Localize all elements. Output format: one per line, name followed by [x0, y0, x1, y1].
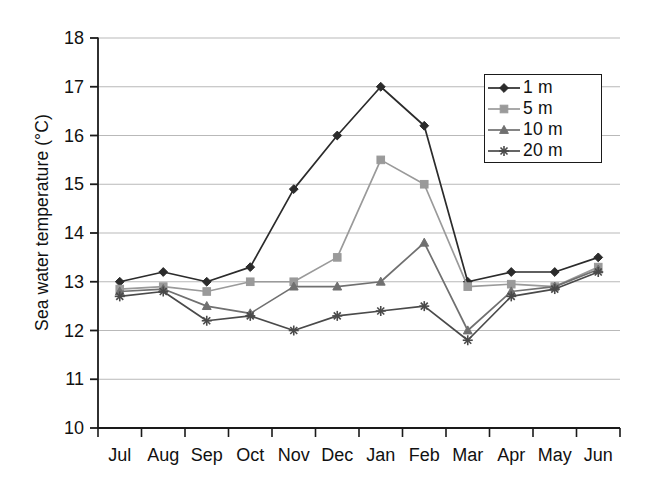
legend-item-20m: 20 m: [485, 140, 603, 161]
x-tick-label: Dec: [321, 446, 353, 464]
series-5m: [116, 156, 602, 295]
x-tick-label: Feb: [409, 446, 440, 464]
x-tick-label: Aug: [147, 446, 179, 464]
chart-container: Sea water temperature (°C) 1011121314151…: [0, 0, 651, 487]
legend-label: 20 m: [523, 140, 563, 161]
legend-label: 1 m: [523, 77, 553, 98]
y-tick-label: 17: [38, 78, 84, 96]
x-tick-label: Mar: [452, 446, 483, 464]
x-tick-label: Jul: [108, 446, 131, 464]
legend-marker-star-icon: [485, 141, 523, 161]
y-tick-label: 12: [38, 322, 84, 340]
y-tick-label: 10: [38, 419, 84, 437]
x-tick-label: Jan: [366, 446, 395, 464]
y-tick-label: 16: [38, 127, 84, 145]
legend-label: 5 m: [523, 98, 553, 119]
series-20m: [115, 267, 604, 345]
x-tick-label: May: [538, 446, 572, 464]
legend-marker-square-icon: [485, 99, 523, 119]
y-tick-label: 11: [38, 370, 84, 388]
y-tick-label: 15: [38, 175, 84, 193]
legend-item-5m: 5 m: [485, 98, 603, 119]
legend-label: 10 m: [523, 119, 563, 140]
x-tick-label: Apr: [497, 446, 525, 464]
x-tick-label: Sep: [191, 446, 223, 464]
y-tick-label: 18: [38, 29, 84, 47]
x-tick-label: Jun: [584, 446, 613, 464]
x-tick-label: Nov: [278, 446, 310, 464]
x-tick-label: Oct: [236, 446, 264, 464]
legend-marker-diamond-icon: [485, 78, 523, 98]
legend-item-10m: 10 m: [485, 119, 603, 140]
legend-item-1m: 1 m: [485, 77, 603, 98]
y-tick-label: 13: [38, 273, 84, 291]
legend: 1 m5 m10 m20 m: [484, 74, 602, 163]
y-tick-label: 14: [38, 224, 84, 242]
legend-marker-triangle-icon: [485, 120, 523, 140]
